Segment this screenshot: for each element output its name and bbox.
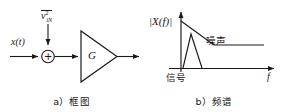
panel-a-caption: a）框图: [0, 94, 143, 108]
amplifier-gain-label: G: [88, 50, 96, 61]
panel-b-caption: b）频谱: [143, 94, 285, 108]
amplifier-triangle: [81, 31, 117, 82]
input-signal-label: x(t): [11, 37, 25, 47]
summing-junction-sign: +: [44, 52, 52, 62]
noise-exponent: 2: [45, 10, 48, 16]
signal-spectrum-trace: [183, 34, 202, 68]
signal-annotation-label: 信号: [166, 73, 186, 83]
x-axis-label: f: [267, 72, 270, 82]
figure-root: x(t) v2iN + G a）框图 |X(: [0, 0, 285, 112]
noise-source-label: v2iN: [41, 10, 52, 22]
block-diagram-panel: x(t) v2iN + G a）框图: [0, 0, 143, 112]
spectrum-panel: |X(f)| 噪声 信号 f b）频谱: [143, 0, 285, 112]
noise-annotation-label: 噪声: [206, 36, 226, 46]
y-axis-label: |X(f)|: [149, 16, 172, 27]
noise-subscript: iN: [46, 17, 52, 23]
